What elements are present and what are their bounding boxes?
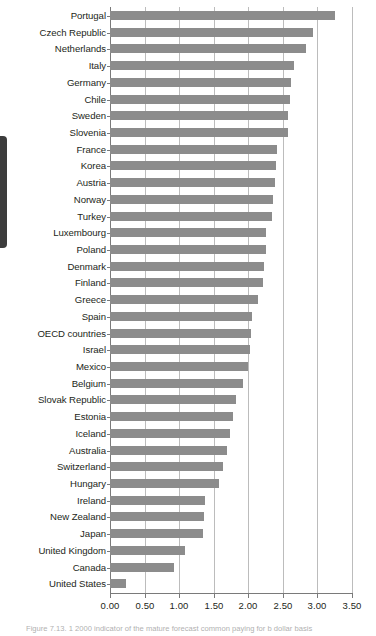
category-label-portugal: Portugal <box>71 10 106 22</box>
category-label-belgium: Belgium <box>72 378 106 390</box>
x-tick-label-3.00: 3.00 <box>308 600 327 611</box>
bar-luxembourg[interactable] <box>110 228 266 237</box>
bar-australia[interactable] <box>110 446 227 455</box>
bar-switzerland[interactable] <box>110 462 223 471</box>
bar-slovenia[interactable] <box>110 128 288 137</box>
x-tick-label-3.50: 3.50 <box>343 600 362 611</box>
bar-denmark[interactable] <box>110 262 264 271</box>
category-label-slovenia: Slovenia <box>70 127 106 139</box>
x-tick-label-2.00: 2.00 <box>239 600 258 611</box>
x-tick-0.00 <box>110 594 111 598</box>
bar-mexico[interactable] <box>110 362 248 371</box>
category-label-czech-republic: Czech Republic <box>40 27 107 39</box>
bar-estonia[interactable] <box>110 412 233 421</box>
category-label-united-kingdom: United Kingdom <box>38 545 106 557</box>
category-label-new-zealand: New Zealand <box>50 511 106 523</box>
x-tick-label-2.50: 2.50 <box>274 600 293 611</box>
bar-czech-republic[interactable] <box>110 28 313 37</box>
bar-new-zealand[interactable] <box>110 512 204 521</box>
category-label-austria: Austria <box>76 177 106 189</box>
category-label-estonia: Estonia <box>74 411 106 423</box>
bar-chart-plot: PortugalCzech RepublicNetherlandsItalyGe… <box>0 0 376 600</box>
x-tick-label-1.50: 1.50 <box>205 600 224 611</box>
figure-container: PortugalCzech RepublicNetherlandsItalyGe… <box>0 0 376 636</box>
category-label-australia: Australia <box>69 445 106 457</box>
x-tick-3.50 <box>352 594 353 598</box>
bar-hungary[interactable] <box>110 479 219 488</box>
category-label-greece: Greece <box>75 294 106 306</box>
x-tick-3.00 <box>317 594 318 598</box>
category-label-italy: Italy <box>89 60 106 72</box>
category-label-israel: Israel <box>83 344 106 356</box>
category-label-norway: Norway <box>74 194 106 206</box>
bar-iceland[interactable] <box>110 429 230 438</box>
bar-ireland[interactable] <box>110 496 205 505</box>
category-label-denmark: Denmark <box>67 261 106 273</box>
category-label-hungary: Hungary <box>70 478 106 490</box>
bar-chile[interactable] <box>110 95 290 104</box>
bar-portugal[interactable] <box>110 11 335 20</box>
bar-italy[interactable] <box>110 61 294 70</box>
category-label-chile: Chile <box>84 94 106 106</box>
category-label-oecd-countries: OECD countries <box>37 328 106 340</box>
bar-korea[interactable] <box>110 161 276 170</box>
category-label-slovak-republic: Slovak Republic <box>38 394 106 406</box>
x-tick-0.50 <box>145 594 146 598</box>
x-tick-label-1.00: 1.00 <box>170 600 189 611</box>
bar-slovak-republic[interactable] <box>110 395 236 404</box>
bar-sweden[interactable] <box>110 111 288 120</box>
x-tick-2.00 <box>248 594 249 598</box>
bar-norway[interactable] <box>110 195 273 204</box>
category-label-netherlands: Netherlands <box>55 43 106 55</box>
category-label-turkey: Turkey <box>77 211 106 223</box>
category-label-france: France <box>76 144 106 156</box>
bar-belgium[interactable] <box>110 379 243 388</box>
x-tick-label-0.50: 0.50 <box>136 600 155 611</box>
category-label-sweden: Sweden <box>72 110 106 122</box>
category-label-korea: Korea <box>81 160 106 172</box>
bar-greece[interactable] <box>110 295 258 304</box>
category-label-japan: Japan <box>80 528 106 540</box>
bar-austria[interactable] <box>110 178 275 187</box>
category-label-ireland: Ireland <box>77 495 106 507</box>
bar-germany[interactable] <box>110 78 291 87</box>
category-label-iceland: Iceland <box>75 428 106 440</box>
figure-caption: Figure 7.13. 1 2000 indicator of the mat… <box>0 624 376 636</box>
bar-finland[interactable] <box>110 278 263 287</box>
bar-japan[interactable] <box>110 529 203 538</box>
x-tick-1.50 <box>214 594 215 598</box>
x-tick-1.00 <box>179 594 180 598</box>
bar-netherlands[interactable] <box>110 44 306 53</box>
category-label-mexico: Mexico <box>76 361 106 373</box>
bar-france[interactable] <box>110 145 277 154</box>
category-label-canada: Canada <box>73 562 106 574</box>
category-label-poland: Poland <box>76 244 106 256</box>
bar-united-states[interactable] <box>110 579 126 588</box>
bar-israel[interactable] <box>110 345 250 354</box>
bar-united-kingdom[interactable] <box>110 546 185 555</box>
bar-canada[interactable] <box>110 563 174 572</box>
bar-poland[interactable] <box>110 245 266 254</box>
x-tick-label-0.00: 0.00 <box>101 600 120 611</box>
bar-oecd-countries[interactable] <box>110 329 251 338</box>
category-label-united-states: United States <box>49 578 106 590</box>
figure-caption-text: Figure 7.13. 1 2000 indicator of the mat… <box>26 624 312 634</box>
category-label-switzerland: Switzerland <box>57 461 106 473</box>
bar-turkey[interactable] <box>110 212 272 221</box>
category-label-luxembourg: Luxembourg <box>53 227 106 239</box>
category-label-spain: Spain <box>82 311 106 323</box>
bar-spain[interactable] <box>110 312 252 321</box>
category-label-finland: Finland <box>75 277 106 289</box>
x-tick-2.50 <box>283 594 284 598</box>
category-label-germany: Germany <box>67 77 106 89</box>
